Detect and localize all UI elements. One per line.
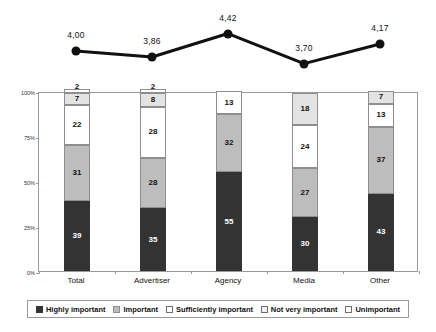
mean-score-polyline — [0, 0, 436, 92]
legend-swatch-sufficiently-important-icon — [166, 306, 173, 313]
bar-segment[interactable]: 27 — [292, 168, 318, 217]
bar-segment[interactable]: 8 — [140, 93, 166, 107]
bar-segment-value: 18 — [301, 105, 310, 113]
y-axis-tick-label: 0% — [27, 270, 35, 276]
stacked-bar-total[interactable]: 27223139 — [64, 89, 90, 271]
bar-segment[interactable]: 28 — [140, 158, 166, 208]
legend-item[interactable]: Important — [113, 305, 158, 314]
mean-score-value-label: 3,86 — [143, 36, 160, 46]
bar-segment[interactable]: 22 — [64, 105, 90, 145]
bar-segment[interactable]: 32 — [216, 114, 242, 172]
y-axis-tick-label: 75% — [24, 135, 35, 141]
stacked-bar-advertiser[interactable]: 28282835 — [140, 89, 166, 271]
mean-score-value-label: 4,00 — [67, 30, 84, 40]
stacked-bar-media[interactable]: 18242730 — [292, 93, 318, 271]
legend-swatch-unimportant-icon — [345, 306, 352, 313]
bar-segment-value: 37 — [377, 156, 386, 164]
x-axis-tick-mark — [39, 271, 40, 274]
y-axis-tick-mark — [36, 93, 39, 94]
mean-score-value-label: 3,70 — [295, 43, 312, 53]
mean-score-value-label: 4,42 — [219, 13, 236, 23]
legend-item[interactable]: Sufficiently important — [166, 305, 253, 314]
stacked-bar-other[interactable]: 7133743 — [368, 91, 394, 271]
bar-segment-value: 13 — [377, 111, 386, 119]
bar-segment-value: 7 — [379, 93, 383, 101]
x-axis-tick-mark — [343, 271, 344, 274]
legend-item-label: Unimportant — [355, 305, 400, 314]
stacked-bar-chart-with-mean-line: 4,003,864,423,704,17 0%25%50%75%100% 272… — [0, 0, 436, 332]
bar-segment[interactable]: 13 — [216, 91, 242, 114]
legend-item-label: Not very important — [271, 305, 338, 314]
y-axis-tick-mark — [36, 228, 39, 229]
x-axis-tick-mark — [267, 271, 268, 274]
legend-item[interactable]: Highly important — [36, 305, 106, 314]
stacked-bar-agency[interactable]: 133255 — [216, 91, 242, 271]
bar-segment[interactable]: 43 — [368, 194, 394, 271]
bar-segment[interactable]: 7 — [368, 91, 394, 104]
bar-segment-value: 55 — [225, 218, 234, 226]
chart-legend: Highly importantImportantSufficiently im… — [27, 300, 409, 318]
bar-segment-value: 8 — [151, 96, 155, 104]
legend-item-label: Important — [123, 305, 158, 314]
bar-segment[interactable]: 7 — [64, 93, 90, 106]
x-axis-label-agency: Agency — [215, 276, 242, 285]
bar-segment-value: 24 — [301, 143, 310, 151]
bar-segment[interactable]: 30 — [292, 217, 318, 271]
legend-item-label: Sufficiently important — [176, 305, 253, 314]
y-axis-tick-label: 50% — [24, 180, 35, 186]
legend-item[interactable]: Unimportant — [345, 305, 400, 314]
y-axis-tick-mark — [36, 138, 39, 139]
bar-segment-value: 2 — [75, 83, 79, 91]
bar-segment[interactable]: 55 — [216, 172, 242, 271]
bar-segment[interactable]: 35 — [140, 208, 166, 271]
mean-score-marker[interactable] — [376, 39, 385, 48]
bar-segment-value: 32 — [225, 139, 234, 147]
bar-segment-value: 43 — [377, 228, 386, 236]
x-axis-tick-mark — [191, 271, 192, 274]
bar-segment-value: 28 — [149, 128, 158, 136]
mean-score-marker[interactable] — [72, 47, 81, 56]
x-axis-label-total: Total — [68, 276, 85, 285]
y-axis-tick-label: 100% — [21, 90, 35, 96]
x-axis-label-other: Other — [370, 276, 390, 285]
bar-segment[interactable]: 28 — [140, 107, 166, 157]
bar-segment-value: 39 — [73, 232, 82, 240]
y-axis-tick-label: 25% — [24, 225, 35, 231]
y-axis-tick-mark — [36, 183, 39, 184]
legend-swatch-important-icon — [113, 306, 120, 313]
mean-score-line-panel: 4,003,864,423,704,17 — [0, 0, 436, 92]
bar-segment-value: 13 — [225, 99, 234, 107]
bar-segment[interactable]: 39 — [64, 201, 90, 271]
bar-segment-value: 7 — [75, 95, 79, 103]
bar-segment-value: 31 — [73, 169, 82, 177]
x-axis-tick-mark — [419, 271, 420, 274]
mean-score-value-label: 4,17 — [371, 23, 388, 33]
bar-segment-value: 2 — [151, 83, 155, 91]
legend-item[interactable]: Not very important — [261, 305, 338, 314]
x-axis-label-advertiser: Advertiser — [134, 276, 170, 285]
bar-segment-value: 35 — [149, 236, 158, 244]
bar-segment[interactable]: 31 — [64, 145, 90, 201]
bar-segment-value: 30 — [301, 240, 310, 248]
bar-segment-value: 28 — [149, 179, 158, 187]
bar-segment[interactable]: 18 — [292, 93, 318, 125]
bar-segment[interactable]: 13 — [368, 104, 394, 127]
bar-segment[interactable]: 37 — [368, 127, 394, 194]
mean-score-marker[interactable] — [300, 59, 309, 68]
legend-swatch-not-very-important-icon — [261, 306, 268, 313]
bar-segment-value: 22 — [73, 121, 82, 129]
plot-area: 0%25%50%75%100% 272231392828283513325518… — [38, 92, 418, 272]
x-axis-tick-mark — [115, 271, 116, 274]
mean-score-marker[interactable] — [224, 29, 233, 38]
bar-segment[interactable]: 24 — [292, 125, 318, 168]
mean-score-marker[interactable] — [148, 52, 157, 61]
bar-segment-value: 27 — [301, 189, 310, 197]
x-axis-label-media: Media — [293, 276, 315, 285]
legend-swatch-highly-important-icon — [36, 306, 43, 313]
legend-item-label: Highly important — [46, 305, 106, 314]
